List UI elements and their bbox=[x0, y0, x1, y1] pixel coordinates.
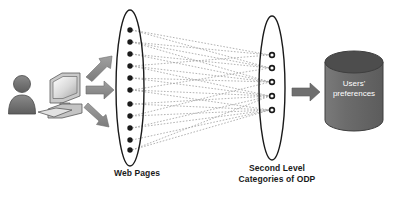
web-page-node bbox=[127, 147, 132, 152]
web-page-node bbox=[127, 51, 132, 56]
diagram-canvas: Users' preferences Web Pages Second Leve… bbox=[0, 0, 396, 204]
arrow-user-to-webpages-up bbox=[86, 56, 112, 82]
web-page-node bbox=[127, 75, 132, 80]
connection-line bbox=[132, 54, 270, 82]
connection-line bbox=[132, 82, 270, 116]
mapping-connection-lines bbox=[132, 30, 270, 150]
web-page-node bbox=[127, 27, 132, 32]
arrow-user-to-webpages-down bbox=[84, 103, 109, 127]
database-label-line1: Users' bbox=[325, 79, 383, 89]
database-label-line2: preferences bbox=[325, 89, 383, 99]
web-page-node bbox=[127, 125, 132, 130]
odp-category-node bbox=[270, 66, 275, 71]
odp-category-node bbox=[270, 53, 275, 58]
database-label: Users' preferences bbox=[325, 79, 383, 99]
connection-line bbox=[132, 30, 270, 55]
arrow-to-database bbox=[292, 83, 320, 101]
web-page-node bbox=[127, 87, 132, 92]
connection-line bbox=[132, 96, 270, 104]
web-page-node bbox=[127, 63, 132, 68]
connection-line bbox=[132, 96, 270, 150]
connection-line bbox=[132, 54, 270, 68]
web-page-node bbox=[127, 39, 132, 44]
odp-category-node bbox=[270, 108, 275, 113]
connection-line bbox=[132, 110, 270, 150]
web-page-node bbox=[127, 113, 132, 118]
odp-label-line2: Categories of ODP bbox=[222, 174, 332, 185]
arrow-user-to-webpages-mid bbox=[86, 81, 114, 99]
odp-categories-ellipse bbox=[259, 16, 285, 160]
web-pages-label: Web Pages bbox=[92, 168, 182, 179]
connection-line bbox=[132, 66, 270, 96]
odp-category-node-group bbox=[270, 53, 275, 113]
odp-categories-label: Second Level Categories of ODP bbox=[222, 163, 332, 184]
odp-label-line1: Second Level bbox=[222, 163, 332, 174]
web-page-node bbox=[127, 101, 132, 106]
desktop-computer-icon bbox=[38, 73, 82, 118]
web-page-node-group bbox=[127, 27, 132, 152]
connection-line bbox=[132, 66, 270, 82]
connection-line bbox=[132, 78, 270, 82]
connection-line bbox=[132, 42, 270, 55]
user-person-icon bbox=[9, 76, 36, 115]
connection-line bbox=[132, 110, 270, 116]
odp-category-node bbox=[270, 94, 275, 99]
connection-line bbox=[132, 110, 270, 140]
connection-line bbox=[132, 90, 270, 96]
diagram-graphics bbox=[0, 0, 396, 204]
connection-line bbox=[132, 68, 270, 90]
connection-line bbox=[132, 90, 270, 110]
connection-line bbox=[132, 42, 270, 82]
web-page-node bbox=[127, 137, 132, 142]
odp-category-node bbox=[270, 80, 275, 85]
